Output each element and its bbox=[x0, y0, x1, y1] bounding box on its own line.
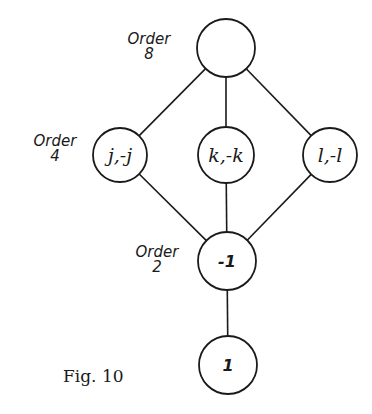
node-j: j,-j bbox=[93, 128, 147, 182]
node-label: 1 bbox=[222, 356, 233, 375]
node-label: l,-l bbox=[318, 144, 343, 166]
edge-j-neg1 bbox=[139, 174, 206, 241]
figure-caption: Fig. 10 bbox=[63, 366, 124, 386]
node-circle bbox=[197, 19, 255, 77]
nodes: j,-jk,-kl,-l-11 bbox=[93, 19, 357, 394]
node-neg1: -1 bbox=[198, 232, 256, 290]
subgroup-lattice-diagram: j,-jk,-kl,-l-11 Order8Order4Order2 Fig. … bbox=[0, 0, 372, 414]
node-one: 1 bbox=[199, 336, 257, 394]
order-label-value: 2 bbox=[152, 258, 162, 276]
node-l: l,-l bbox=[303, 128, 357, 182]
edges bbox=[139, 69, 311, 336]
node-label: -1 bbox=[218, 252, 236, 271]
node-top bbox=[197, 19, 255, 77]
edge-top-j bbox=[139, 69, 206, 136]
node-k: k,-k bbox=[198, 127, 254, 183]
edge-l-neg1 bbox=[247, 174, 311, 240]
order-label-value: 8 bbox=[144, 45, 154, 63]
node-label: k,-k bbox=[208, 144, 244, 166]
order-label-value: 4 bbox=[50, 147, 60, 165]
node-label: j,-j bbox=[104, 144, 132, 166]
edge-top-l bbox=[246, 69, 311, 136]
